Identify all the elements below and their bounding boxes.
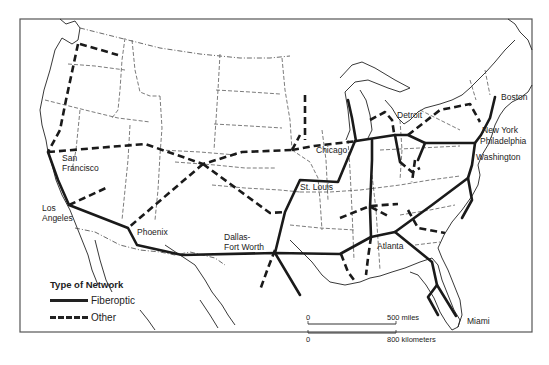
state-borders <box>45 38 490 270</box>
city-label-dallas-fort-worth: Dallas- Fort Worth <box>224 232 264 252</box>
legend-item-other: Other <box>50 310 135 324</box>
city-label-chicago: Chicago <box>316 145 347 155</box>
city-label-philadelphia: Philadelphia <box>480 136 526 146</box>
scale-bar <box>308 321 396 333</box>
map-legend: Type of Network Fiberoptic Other <box>50 279 135 324</box>
dashed-line-icon <box>50 316 88 319</box>
city-label-atlanta: Atlanta <box>377 241 403 251</box>
legend-title: Type of Network <box>50 279 135 290</box>
city-label-san-francisco: San Francisco <box>62 153 99 173</box>
city-label-st-louis: St. Louis <box>300 182 333 192</box>
solid-line-icon <box>50 299 88 302</box>
legend-label-fiberoptic: Fiberoptic <box>91 295 135 306</box>
city-label-los-angeles: Los Angeles <box>42 203 73 223</box>
city-label-washington: Washington <box>476 152 521 162</box>
legend-item-fiberoptic: Fiberoptic <box>50 293 135 307</box>
legend-label-other: Other <box>91 312 116 323</box>
scale-miles-zero: 0 <box>306 313 310 322</box>
city-label-boston: Boston <box>501 92 527 102</box>
scale-km-zero: 0 <box>306 335 310 344</box>
city-label-miami: Miami <box>467 316 490 326</box>
scale-miles-label: 500 miles <box>387 313 419 322</box>
city-label-phoenix: Phoenix <box>137 227 168 237</box>
scale-km-label: 800 kilometers <box>387 335 436 344</box>
city-label-detroit: Detroit <box>397 110 422 120</box>
city-label-new-york: New York <box>482 125 518 135</box>
